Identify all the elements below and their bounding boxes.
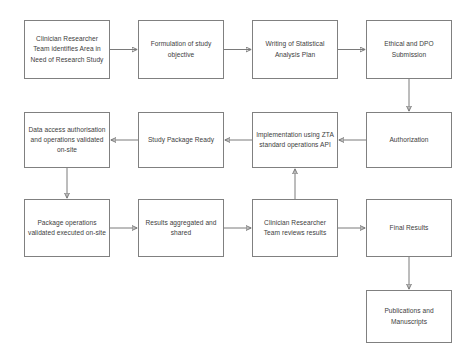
flow-node-label: Results aggregated and shared xyxy=(142,218,220,238)
flow-node-label: Formulation of study objective xyxy=(142,39,220,59)
flow-node-label: Authorization xyxy=(370,135,448,145)
edge-layer xyxy=(67,50,409,290)
flow-node-label: Clinician Researcher Team identifies Are… xyxy=(28,34,106,65)
flow-node-study-package-ready[interactable]: Study Package Ready xyxy=(138,112,224,168)
flow-node-results-aggregated[interactable]: Results aggregated and shared xyxy=(138,199,224,257)
flow-node-label: Ethical and DPO Submission xyxy=(370,39,448,59)
flow-node-data-access-authorisation[interactable]: Data access authorisation and operations… xyxy=(24,112,110,168)
flow-node-label: Writing of Statistical Analysis Plan xyxy=(256,39,334,59)
flow-node-label: Data access authorisation and operations… xyxy=(28,125,106,156)
flow-node-identify-area[interactable]: Clinician Researcher Team identifies Are… xyxy=(24,20,110,79)
flow-node-formulation[interactable]: Formulation of study objective xyxy=(138,20,224,79)
flow-node-label: Final Results xyxy=(370,223,448,233)
flow-node-label: Implementation using ZTA standard operat… xyxy=(256,130,334,150)
flow-node-label: Package operations validated executed on… xyxy=(28,218,106,238)
flow-node-label: Clinician Researcher Team reviews result… xyxy=(256,218,334,238)
flow-node-publications-manuscripts[interactable]: Publications and Manuscripts xyxy=(366,290,452,343)
flow-node-label: Publications and Manuscripts xyxy=(370,306,448,326)
flow-node-ethical-dpo-submission[interactable]: Ethical and DPO Submission xyxy=(366,20,452,79)
flow-node-label: Study Package Ready xyxy=(142,135,220,145)
flow-node-authorization[interactable]: Authorization xyxy=(366,112,452,168)
flow-node-team-reviews-results[interactable]: Clinician Researcher Team reviews result… xyxy=(252,199,338,257)
flowchart-canvas: Clinician Researcher Team identifies Are… xyxy=(0,0,473,353)
flow-node-statistical-analysis-plan[interactable]: Writing of Statistical Analysis Plan xyxy=(252,20,338,79)
flow-node-final-results[interactable]: Final Results xyxy=(366,199,452,257)
flow-node-package-operations-validated[interactable]: Package operations validated executed on… xyxy=(24,199,110,257)
flow-node-implementation-zta[interactable]: Implementation using ZTA standard operat… xyxy=(252,112,338,168)
